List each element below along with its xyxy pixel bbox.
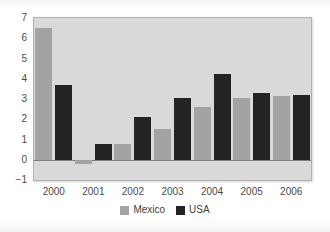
- bar-usa-2006: [293, 95, 310, 160]
- bar-group-2006: [273, 18, 310, 180]
- y-axis: −101234567: [0, 17, 31, 181]
- bar-usa-2004: [214, 74, 231, 160]
- x-axis-tick-label: 2003: [161, 186, 183, 198]
- bar-usa-2000: [55, 85, 72, 160]
- y-axis-tick-label: 4: [21, 74, 27, 84]
- legend-item-usa: USA: [176, 205, 210, 215]
- legend-label: USA: [189, 205, 210, 215]
- bar-group-2005: [233, 18, 270, 180]
- y-axis-tick-label: 0: [21, 155, 27, 165]
- legend-swatch-icon: [176, 206, 185, 215]
- y-axis-tick-label: 3: [21, 94, 27, 104]
- y-axis-tick-label: 1: [21, 135, 27, 145]
- y-axis-tick-label: 6: [21, 33, 27, 43]
- bar-mexico-2003: [154, 129, 171, 159]
- y-axis-tick-label: 2: [21, 114, 27, 124]
- legend-item-mexico: Mexico: [120, 205, 165, 215]
- y-axis-tick-label: −1: [16, 175, 27, 185]
- bar-usa-2005: [253, 93, 270, 160]
- x-axis-tick-label: 2001: [82, 186, 104, 198]
- x-axis-tick-label: 2006: [280, 186, 302, 198]
- bar-group-2001: [75, 18, 112, 180]
- x-axis-tick-label: 2004: [201, 186, 223, 198]
- bar-group-2002: [114, 18, 151, 180]
- legend-swatch-icon: [120, 206, 129, 215]
- x-axis-tick-label: 2005: [241, 186, 263, 198]
- x-axis-tick-label: 2002: [122, 186, 144, 198]
- chart-screenshot: −101234567 2000200120022003200420052006 …: [0, 0, 330, 232]
- y-axis-tick-label: 7: [21, 13, 27, 23]
- plot-area: [33, 17, 312, 181]
- bar-usa-2002: [134, 117, 151, 160]
- plot-inner: [34, 18, 311, 180]
- bar-usa-2003: [174, 98, 191, 160]
- bar-mexico-2006: [273, 96, 290, 160]
- bar-mexico-2005: [233, 98, 250, 160]
- bar-mexico-2004: [194, 107, 211, 160]
- bar-group-2000: [35, 18, 72, 180]
- bar-group-2003: [154, 18, 191, 180]
- bar-mexico-2001: [75, 160, 92, 164]
- x-axis: 2000200120022003200420052006: [33, 186, 312, 200]
- legend-label: Mexico: [133, 205, 165, 215]
- chart-legend: MexicoUSA: [0, 205, 330, 215]
- x-axis-tick-label: 2000: [43, 186, 65, 198]
- bar-usa-2001: [95, 144, 112, 160]
- bar-chart-figure: −101234567 2000200120022003200420052006 …: [0, 0, 330, 232]
- y-axis-tick-label: 5: [21, 54, 27, 64]
- bar-mexico-2002: [114, 144, 131, 160]
- bar-group-2004: [194, 18, 231, 180]
- bar-mexico-2000: [35, 28, 52, 160]
